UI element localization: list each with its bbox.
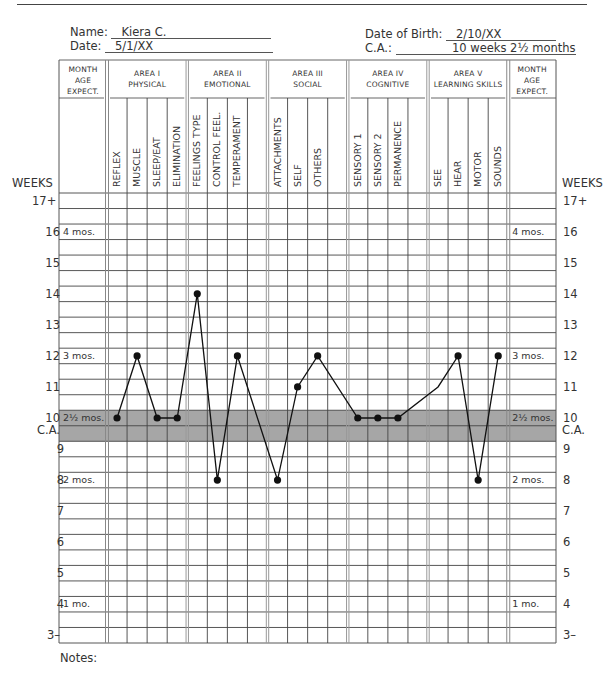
week-tick-right: 7 [563,504,570,518]
area-header-3: AREA III SOCIAL [268,68,348,90]
column-label-reflex: REFLEX [111,151,122,187]
week-tick-left: 15 [36,256,60,270]
column-label-hear: HEAR [452,161,463,187]
month-mark-right: 2 mos. [512,474,544,485]
data-point-sensory-2 [374,414,381,421]
week-tick-right: 3– [563,628,576,642]
notes-label: Notes: [60,651,97,665]
week-tick-right: 15 [563,256,578,270]
month-mark-left: 2 mos. [63,474,95,485]
column-label-see: SEE [432,169,443,187]
ca-tick-left: C.A. [20,423,60,437]
column-label-attachments: ATTACHMENTS [272,117,283,187]
column-label-sleep-eat: SLEEP/EAT [151,137,162,187]
weeks-axis-label-left: WEEKS [12,176,53,190]
week-tick-left: 11 [36,380,60,394]
week-tick-left: 12 [36,349,60,363]
data-point-self [294,383,301,390]
right-month-header: MONTH AGE EXPECT. [508,64,556,97]
area-header-4: AREA IV COGNITIVE [348,68,428,90]
left-month-header: MONTH AGE EXPECT. [59,64,107,97]
month-mark-right: 4 mos. [512,226,544,237]
data-point-elimination [174,414,181,421]
week-tick-left: 14 [36,287,60,301]
month-mark-left: 4 mos. [63,226,95,237]
development-chart [0,0,607,675]
column-label-sounds: SOUNDS [492,146,503,187]
month-mark-left: 1 mo. [63,598,90,609]
week-tick-right: 16 [563,225,578,239]
weeks-axis-label-right: WEEKS [562,176,603,190]
month-mark-right: 2½ mos. [512,412,553,423]
week-tick-left: 6 [40,535,64,549]
data-point-attachments [274,476,281,483]
week-tick-left: 3– [36,628,60,642]
area-header-2: AREA II EMOTIONAL [187,68,267,90]
data-point-feelings-type [194,290,201,297]
column-label-control-feel-: CONTROL FEEL. [211,112,222,187]
column-label-permanence: PERMANENCE [392,121,403,187]
week-tick-left: 7 [40,504,64,518]
week-tick-right: 17+ [563,194,587,208]
week-tick-right: 12 [563,349,578,363]
data-point-sleep-eat [154,414,161,421]
data-point-control-feel- [214,476,221,483]
column-label-others: OTHERS [312,148,323,187]
week-tick-left: 4 [40,597,64,611]
week-tick-left: 16 [36,225,60,239]
area-header-1: AREA I PHYSICAL [107,68,187,90]
column-label-sensory-2: SENSORY 2 [372,133,383,187]
week-tick-right: 6 [563,535,570,549]
week-tick-left: 5 [40,566,64,580]
month-mark-left: 2½ mos. [63,412,104,423]
month-mark-left: 3 mos. [63,350,95,361]
column-label-self: SELF [292,164,303,187]
month-mark-right: 1 mo. [512,598,539,609]
column-label-muscle: MUSCLE [131,148,142,187]
week-tick-right: 4 [563,597,570,611]
week-tick-right: 9 [563,442,570,456]
week-tick-right: 13 [563,318,578,332]
week-tick-right: 5 [563,566,570,580]
data-point-muscle [133,352,140,359]
area-header-5: AREA V LEARNING SKILLS [428,68,508,90]
column-label-temperament: TEMPERAMENT [231,115,242,187]
column-label-sensory-1: SENSORY 1 [352,133,363,187]
column-label-feelings-type: FEELINGS TYPE [191,115,202,187]
data-point-reflex [113,414,120,421]
data-point-hear [454,352,461,359]
data-point-temperament [234,352,241,359]
data-point-motor [475,476,482,483]
month-mark-right: 3 mos. [512,350,544,361]
week-tick-right: 11 [563,380,578,394]
data-point-permanence [394,414,401,421]
week-tick-right: 8 [563,473,570,487]
column-label-elimination: ELIMINATION [171,126,182,187]
ca-tick-right: C.A. [562,423,585,437]
data-point-sensory-1 [354,414,361,421]
week-tick-left: 9 [40,442,64,456]
week-tick-left: 8 [40,473,64,487]
column-label-motor: MOTOR [472,151,483,187]
week-tick-left: 13 [36,318,60,332]
data-point-sounds [495,352,502,359]
data-point-others [314,352,321,359]
week-tick-right: 14 [563,287,578,301]
week-tick-left: 17+ [32,194,56,208]
